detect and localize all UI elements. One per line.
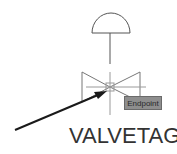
snap-tooltip: Endpoint bbox=[124, 96, 162, 110]
valve-tag-label[interactable]: VALVETAG bbox=[69, 123, 177, 149]
actuator-dome bbox=[92, 13, 130, 33]
arrowhead-icon bbox=[94, 91, 107, 99]
